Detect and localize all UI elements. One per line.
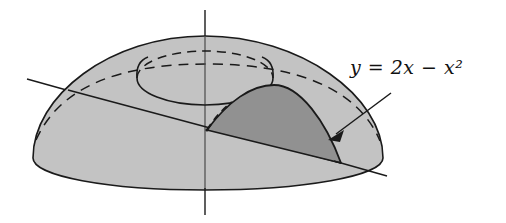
equation-label: y = 2x − x² (350, 56, 463, 78)
origin-point (205, 128, 208, 131)
diagonal-axis-left-stub (27, 79, 70, 91)
figure-container: y = 2x − x² (0, 0, 506, 223)
dome-surface (33, 36, 383, 190)
solid-of-revolution-diagram (0, 0, 506, 223)
